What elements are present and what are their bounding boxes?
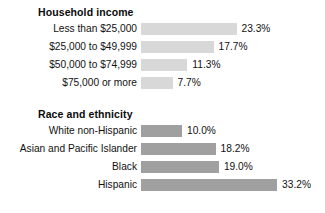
bar-value-label: 7.7%: [178, 76, 201, 89]
group-title-household-income: Household income: [38, 6, 134, 18]
bar-row-label: Asian and Pacific Islander: [0, 142, 137, 155]
bar-row-label: $75,000 or more: [0, 76, 137, 89]
bar: [141, 179, 277, 191]
bar-row-label: White non-Hispanic: [0, 124, 137, 137]
bar: [141, 161, 219, 173]
bar-row-label: $50,000 to $74,999: [0, 58, 137, 71]
bar: [141, 143, 216, 155]
bar: [141, 77, 173, 89]
bar-row: White non-Hispanic10.0%: [0, 124, 325, 138]
bar-row: $50,000 to $74,99911.3%: [0, 58, 325, 72]
bar-value-label: 10.0%: [187, 124, 216, 137]
bar-row: Asian and Pacific Islander18.2%: [0, 142, 325, 156]
bar-row: $25,000 to $49,99917.7%: [0, 40, 325, 54]
bar: [141, 59, 187, 71]
bar-row-label: Hispanic: [0, 178, 137, 191]
bar-row-label: Less than $25,000: [0, 22, 137, 35]
bar-row: Black19.0%: [0, 160, 325, 174]
bar-row: Less than $25,00023.3%: [0, 22, 325, 36]
group-title-race-and-ethnicity: Race and ethnicity: [38, 108, 133, 120]
bar-value-label: 11.3%: [192, 58, 220, 71]
grouped-bar-chart: Household income Less than $25,00023.3%$…: [0, 0, 325, 213]
bar-value-label: 19.0%: [224, 160, 253, 173]
bar: [141, 41, 214, 53]
bar-value-label: 17.7%: [219, 40, 248, 53]
bar: [141, 125, 182, 137]
bar: [141, 23, 237, 35]
bar-value-label: 23.3%: [242, 22, 271, 35]
bar-row-label: $25,000 to $49,999: [0, 40, 137, 53]
bar-row: Hispanic33.2%: [0, 178, 325, 192]
bar-row-label: Black: [0, 160, 137, 173]
bar-value-label: 18.2%: [221, 142, 250, 155]
bar-value-label: 33.2%: [282, 178, 311, 191]
bar-row: $75,000 or more7.7%: [0, 76, 325, 90]
